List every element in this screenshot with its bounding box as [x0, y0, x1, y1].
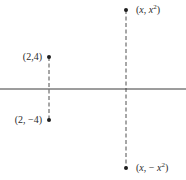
reflection-diagram: [0, 0, 186, 180]
point-2-4-dot: [47, 55, 51, 59]
label-close-paren: ): [157, 4, 160, 15]
point-2-neg4-dot: [47, 118, 51, 122]
label-2-4: (2,4): [23, 52, 42, 62]
label-x-x2: (x, x2): [136, 5, 160, 15]
label-x-negx2: (x, − x2): [136, 163, 168, 173]
label-close-paren: ): [165, 162, 168, 173]
point-x-negx2-dot: [124, 166, 128, 170]
label-2-neg4: (2, −4): [15, 115, 42, 125]
label-sep: , −: [144, 162, 157, 173]
point-x-x2-dot: [124, 8, 128, 12]
